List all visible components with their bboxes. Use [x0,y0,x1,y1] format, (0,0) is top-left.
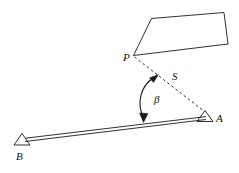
label-angle-beta: β [153,93,160,105]
arc-arrowhead-upper [150,75,159,83]
label-point-b: B [16,150,23,162]
baseline-inner [26,117,207,139]
station-marker-b [14,134,30,146]
arc-arrowhead-lower [140,113,149,123]
diagram-svg: P S A B β [0,0,239,173]
label-point-s: S [172,70,178,82]
building-rectangle [134,13,229,56]
figure-canvas: P S A B β [0,0,239,173]
baseline-outer [25,120,206,142]
sight-line-p-to-a [135,57,205,112]
angle-arc-beta [140,78,154,118]
label-point-a: A [215,112,223,124]
label-point-p: P [122,51,130,63]
